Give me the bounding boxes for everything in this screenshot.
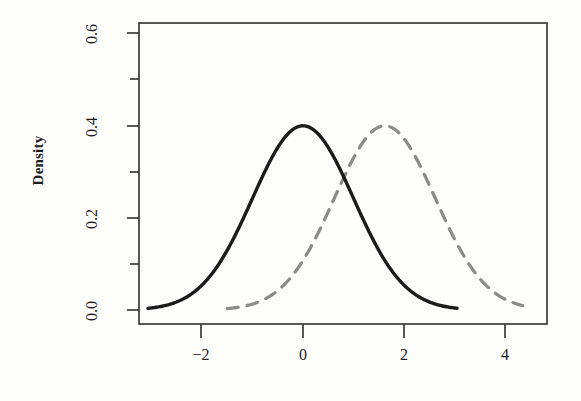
y-axis-title: Density bbox=[30, 126, 47, 196]
y-tick-label-0.2: 0.2 bbox=[83, 199, 101, 239]
x-tick-label-2: 2 bbox=[384, 346, 424, 364]
y-axis-ticks bbox=[127, 33, 139, 310]
density-plot-figure: 0.6 0.4 0.2 0.0 −2 0 2 4 Density bbox=[0, 0, 581, 401]
x-axis-ticks bbox=[201, 324, 505, 338]
y-tick-label-0.6: 0.6 bbox=[83, 14, 101, 54]
solid-density-curve bbox=[148, 126, 457, 309]
x-tick-label-4: 4 bbox=[485, 346, 525, 364]
y-tick-label-0.4: 0.4 bbox=[83, 107, 101, 147]
y-tick-label-0.0: 0.0 bbox=[83, 291, 101, 331]
x-tick-label-0: 0 bbox=[283, 346, 323, 364]
x-tick-label--2: −2 bbox=[181, 346, 221, 364]
dashed-density-curve bbox=[227, 126, 522, 309]
